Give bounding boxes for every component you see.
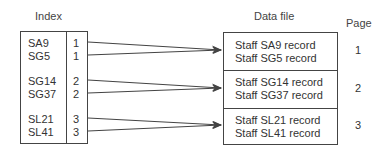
arrow-sg14 [88,80,221,88]
record: Staff SA9 record [235,39,316,51]
arrow-sl41 [88,125,221,131]
arrow-sa9 [88,42,221,50]
data-page-1: Staff SA9 record Staff SG5 record [224,33,337,70]
record: Staff SG37 record [235,89,323,101]
page-number: 3 [355,119,361,131]
data-page-2: Staff SG14 record Staff SG37 record [224,70,337,108]
page-number: 1 [355,44,361,56]
arrow-sg37 [88,88,221,93]
data-page-3: Staff SL21 record Staff SL41 record [224,108,337,144]
page-number: 2 [355,82,361,94]
record: Staff SL21 record [235,114,320,126]
record: Staff SG5 record [235,52,317,64]
arrow-sg5 [88,50,221,55]
data-file-table: Staff SA9 record Staff SG5 record Staff … [223,32,338,145]
record: Staff SL41 record [235,127,320,139]
record: Staff SG14 record [235,76,323,88]
arrow-sl21 [88,118,221,125]
